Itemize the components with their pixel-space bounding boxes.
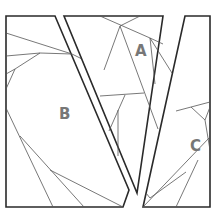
piece-c-label: C (190, 139, 201, 154)
puzzle-diagram (0, 0, 218, 214)
piece-a-label: A (135, 44, 147, 59)
piece-b-label: B (59, 107, 70, 122)
